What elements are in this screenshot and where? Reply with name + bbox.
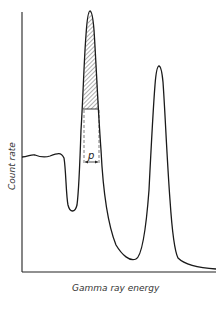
peak-width-label: p (87, 150, 94, 161)
spectrum-curve (22, 11, 216, 269)
x-axis-label: Gamma ray energy (72, 283, 160, 293)
hatched-peak-area (83, 12, 99, 109)
gamma-spectrum-diagram: p Count rate Gamma ray energy (0, 0, 222, 328)
arrow-head-right (95, 161, 98, 164)
y-axis-label: Count rate (7, 142, 17, 190)
